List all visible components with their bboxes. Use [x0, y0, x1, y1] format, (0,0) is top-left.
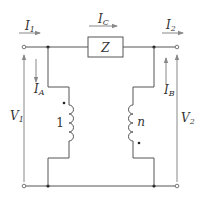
i2-label: I2 [165, 18, 176, 33]
ib-label: IB [163, 83, 175, 98]
left-coil-turns-label: 1 [56, 116, 64, 130]
i1-label: I1 [24, 19, 35, 34]
circuit-svg: Z 1 n I1 IC I2 IA IB V1 V2 [0, 0, 202, 200]
impedance-label: Z [100, 41, 110, 55]
terminal-bottom-left [22, 184, 26, 188]
right-coil-polarity-dot [138, 142, 141, 145]
v2-label: V2 [181, 111, 195, 126]
right-coil-turns-label: n [137, 115, 145, 129]
ic-label: IC [97, 12, 109, 27]
left-coil-polarity-dot [63, 102, 66, 105]
terminal-bottom-right [175, 184, 179, 188]
ia-label: IA [33, 82, 45, 97]
impedance-z: Z [88, 37, 123, 57]
terminal-top-right [175, 45, 179, 49]
v1-label: V1 [10, 109, 24, 124]
circuit-diagram: Z 1 n I1 IC I2 IA IB V1 V2 [0, 0, 202, 200]
terminal-top-left [22, 45, 26, 49]
